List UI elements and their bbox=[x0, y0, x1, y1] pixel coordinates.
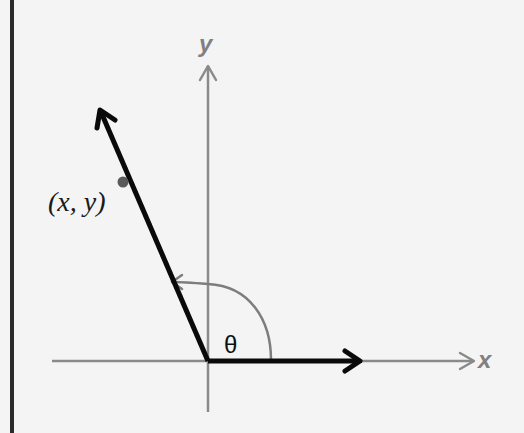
y-axis-label: y bbox=[199, 32, 212, 56]
point-label: (x, y) bbox=[48, 188, 106, 216]
x-axis-label: x bbox=[478, 348, 491, 372]
diagram-canvas: y x (x, y) θ bbox=[0, 0, 524, 433]
rotated-vector bbox=[97, 110, 208, 361]
point-xy bbox=[118, 177, 129, 188]
theta-label: θ bbox=[224, 333, 237, 357]
